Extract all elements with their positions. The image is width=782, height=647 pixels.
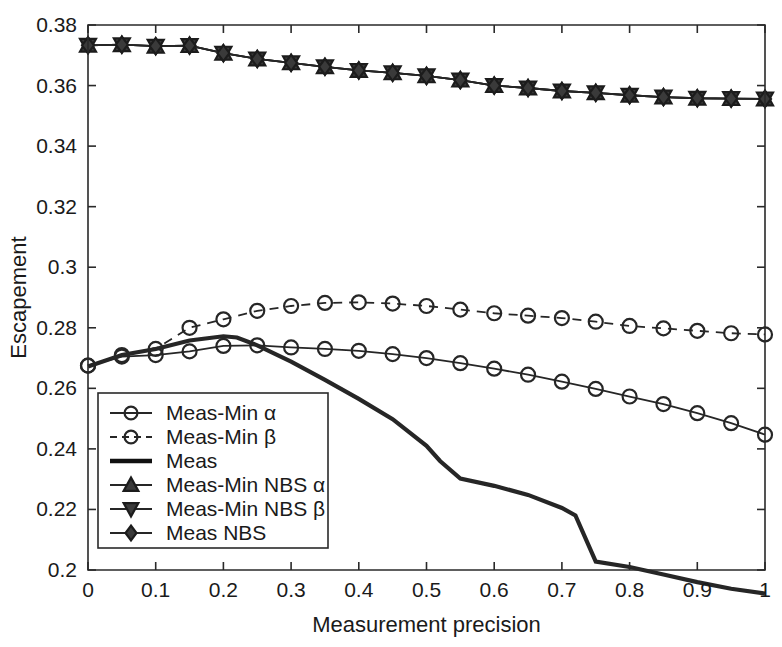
x-tick-label: 0.8: [615, 578, 644, 601]
y-tick-label: 0.38: [36, 13, 77, 36]
y-tick-label: 0.36: [36, 74, 77, 97]
legend-item-label: Meas-Min β: [166, 425, 276, 448]
chart-page: 00.10.20.30.40.50.60.70.80.910.20.220.24…: [0, 0, 782, 647]
x-axis-title: Measurement precision: [312, 612, 541, 637]
legend-item-label: Meas-Min NBS α: [166, 473, 325, 496]
y-tick-label: 0.28: [36, 316, 77, 339]
y-tick-label: 0.3: [48, 255, 77, 278]
y-tick-label: 0.2: [48, 558, 77, 581]
y-tick-label: 0.22: [36, 497, 77, 520]
x-tick-label: 0.3: [276, 578, 305, 601]
x-tick-label: 0.5: [412, 578, 441, 601]
series-5: [82, 37, 771, 107]
y-tick-label: 0.26: [36, 376, 77, 399]
marker-circle: [183, 321, 197, 335]
figure-container: 00.10.20.30.40.50.60.70.80.910.20.220.24…: [0, 0, 782, 647]
x-tick-label: 0.6: [480, 578, 509, 601]
legend-item-label: Meas: [166, 449, 217, 472]
x-tick-label: 0: [82, 578, 94, 601]
y-tick-label: 0.32: [36, 195, 77, 218]
x-tick-label: 0.1: [141, 578, 170, 601]
x-tick-label: 0.2: [209, 578, 238, 601]
x-tick-label: 0.7: [547, 578, 576, 601]
x-tick-label: 1: [759, 578, 771, 601]
legend: Meas-Min αMeas-Min βMeasMeas-Min NBS αMe…: [98, 393, 328, 548]
legend-item-label: Meas-Min α: [166, 401, 276, 424]
escapement-line-chart: 00.10.20.30.40.50.60.70.80.910.20.220.24…: [0, 0, 782, 647]
y-tick-label: 0.34: [36, 134, 77, 157]
legend-item-label: Meas-Min NBS β: [166, 497, 325, 520]
legend-item-label: Meas NBS: [166, 521, 266, 544]
x-tick-label: 0.9: [683, 578, 712, 601]
series-1: [81, 295, 772, 372]
x-tick-label: 0.4: [344, 578, 374, 601]
y-tick-label: 0.24: [36, 437, 77, 460]
y-axis-title: Escapement: [6, 236, 31, 358]
